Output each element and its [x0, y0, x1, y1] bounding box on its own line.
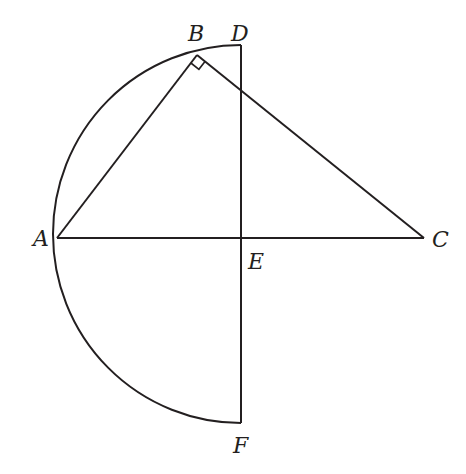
label-A: A — [31, 226, 49, 251]
label-E: E — [247, 249, 264, 274]
segment-BC — [197, 55, 424, 238]
semicircle-arc — [53, 45, 241, 423]
right-angle-mark — [191, 61, 205, 69]
geometry-diagram: B D A E C F — [0, 0, 466, 474]
label-D: D — [230, 21, 249, 46]
label-C: C — [432, 227, 449, 252]
label-F: F — [232, 433, 249, 458]
label-B: B — [187, 21, 204, 46]
